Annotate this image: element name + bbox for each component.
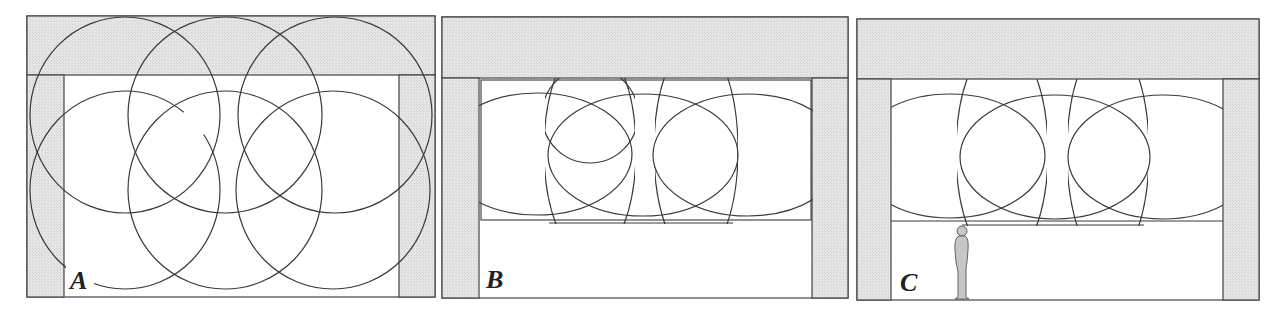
- person-head: [957, 226, 967, 236]
- panel-c: C: [855, 19, 1259, 300]
- panel-a: A: [27, 16, 435, 297]
- panel-b-right-wall: [812, 78, 848, 298]
- panel-c-left-wall: [857, 79, 891, 300]
- panel-c-ceiling: [857, 19, 1259, 79]
- panel-label-c: C: [900, 268, 918, 297]
- panel-c-right-wall: [1223, 79, 1259, 300]
- panel-a-left-wall: [27, 75, 64, 297]
- panel-label-b: B: [485, 265, 503, 294]
- panel-label-a: A: [68, 266, 87, 295]
- panel-b-ceiling: [442, 17, 848, 78]
- panel-b-left-wall: [442, 78, 479, 298]
- lighting-diagram: A B: [0, 0, 1286, 319]
- panel-b: B: [442, 17, 848, 298]
